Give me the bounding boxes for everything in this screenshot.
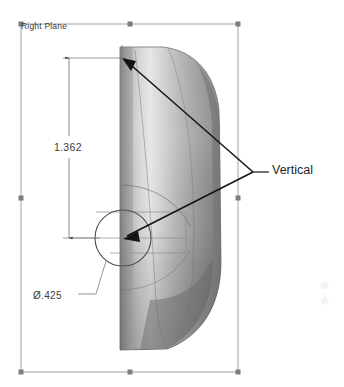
handle-middle-left[interactable] [19,196,24,201]
faint-watermark [320,281,329,305]
handle-top-right[interactable] [236,22,241,27]
handle-middle-right[interactable] [236,196,241,201]
plane-label[interactable]: Right Plane [21,21,67,31]
handle-bottom-right[interactable] [236,370,241,375]
dia-leader-line[interactable] [78,261,106,294]
handle-bottom-center[interactable] [128,370,133,375]
relation-label-vertical[interactable]: Vertical [272,163,313,177]
handle-bottom-left[interactable] [19,370,24,375]
body-left-face [120,47,133,350]
shaded-solid-body[interactable] [120,47,221,350]
handle-top-center[interactable] [128,22,133,27]
diameter-dimension-value[interactable]: Ø.425 [33,290,62,301]
diameter-dimension-leader[interactable] [78,261,106,294]
cad-drawing-canvas[interactable] [0,0,344,387]
linear-dimension-value[interactable]: 1.362 [54,141,82,153]
cad-viewport[interactable]: Right Plane 1.362 Ø.425 Vertical [0,0,344,387]
